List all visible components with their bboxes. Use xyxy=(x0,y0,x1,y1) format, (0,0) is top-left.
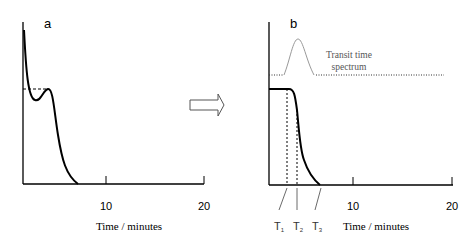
spectrum-label-line1: Transit time xyxy=(326,50,372,60)
panel-b-tick-label-10: 10 xyxy=(347,200,359,212)
panel-a-tick-label-10: 10 xyxy=(100,200,112,212)
diagram-canvas: a 10 20 Time / minutes Transit time spec… xyxy=(0,0,474,242)
panel-b-curve xyxy=(269,89,320,185)
t1-arrow-icon xyxy=(279,188,287,210)
panel-a-curve xyxy=(24,30,78,184)
panel-b-x-axis-label: Time / minutes xyxy=(343,220,409,232)
spectrum-peak xyxy=(284,39,314,75)
t3-arrow-icon xyxy=(315,188,321,210)
panel-a: a 10 20 Time / minutes xyxy=(23,16,210,232)
right-outline-arrow-icon xyxy=(190,94,224,116)
panel-a-tick-label-20: 20 xyxy=(198,200,210,212)
panel-b-tick-label-20: 20 xyxy=(446,200,458,212)
panel-b: Transit time spectrum b T1 T2 T3 10 20 T… xyxy=(269,16,458,233)
spectrum-label-line2: spectrum xyxy=(332,62,367,72)
panel-b-label: b xyxy=(290,16,297,31)
t2-label: T2 xyxy=(293,220,304,233)
panel-a-label: a xyxy=(44,16,52,31)
t3-label: T3 xyxy=(312,220,323,233)
t1-label: T1 xyxy=(274,220,285,233)
panel-a-x-axis-label: Time / minutes xyxy=(96,220,162,232)
